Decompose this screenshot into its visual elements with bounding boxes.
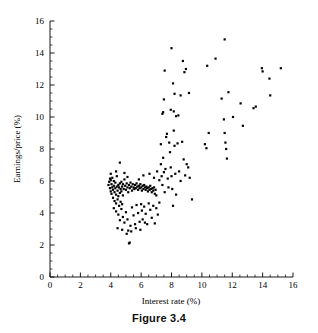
- data-point: [127, 230, 129, 232]
- data-point: [180, 94, 182, 96]
- data-point: [120, 188, 122, 190]
- data-point: [125, 189, 127, 191]
- data-point: [240, 102, 242, 104]
- data-point: [119, 162, 121, 164]
- data-point: [149, 185, 151, 187]
- figure-container: 0246810121416 0246810121416 Interest rat…: [0, 0, 318, 333]
- data-point: [125, 211, 127, 213]
- data-point: [129, 225, 131, 227]
- data-point: [149, 209, 151, 211]
- data-point: [153, 177, 155, 179]
- data-point: [113, 207, 115, 209]
- data-point: [134, 223, 136, 225]
- data-point: [252, 107, 254, 109]
- data-point: [169, 151, 171, 153]
- data-point: [129, 182, 131, 184]
- data-point: [178, 170, 180, 172]
- data-point: [135, 204, 137, 206]
- data-point: [225, 148, 227, 150]
- data-point: [172, 82, 174, 84]
- data-point: [155, 194, 157, 196]
- data-point: [132, 214, 134, 216]
- data-point: [146, 223, 148, 225]
- data-point: [110, 193, 112, 195]
- data-point: [180, 180, 182, 182]
- data-point: [206, 65, 208, 67]
- data-point: [135, 182, 137, 184]
- data-point: [226, 158, 228, 160]
- data-point: [116, 227, 118, 229]
- data-point: [177, 114, 179, 116]
- data-point: [173, 110, 175, 112]
- data-point: [181, 141, 183, 143]
- data-point: [121, 186, 123, 188]
- data-point: [167, 186, 169, 188]
- data-point: [144, 222, 146, 224]
- figure-caption: Figure 3.4: [0, 312, 318, 324]
- data-point: [130, 186, 132, 188]
- data-point: [160, 163, 162, 165]
- data-point: [223, 118, 225, 120]
- data-point: [164, 70, 166, 72]
- data-point: [128, 184, 130, 186]
- data-point: [111, 177, 113, 179]
- data-point: [173, 93, 175, 95]
- data-point: [268, 78, 270, 80]
- data-point: [113, 185, 115, 187]
- data-point: [126, 176, 128, 178]
- data-point: [183, 158, 185, 160]
- data-point: [121, 229, 123, 231]
- data-point: [123, 172, 125, 174]
- data-point: [148, 173, 150, 175]
- data-point: [204, 143, 206, 145]
- data-point: [164, 191, 166, 193]
- data-point: [120, 208, 122, 210]
- data-point: [139, 229, 141, 231]
- data-point: [232, 116, 234, 118]
- data-point: [152, 205, 154, 207]
- data-point: [143, 206, 145, 208]
- data-point: [142, 174, 144, 176]
- x-axis-title: Interest rate (%): [142, 296, 200, 306]
- y-tick-label: 16: [35, 16, 45, 26]
- data-point: [115, 210, 117, 212]
- data-point: [126, 186, 128, 188]
- data-point: [187, 166, 189, 168]
- data-point: [280, 67, 282, 69]
- x-tick-label: 12: [228, 280, 237, 290]
- data-point: [184, 174, 186, 176]
- y-tick-label: 2: [40, 240, 45, 250]
- data-point: [170, 109, 172, 111]
- x-tick-label: 14: [258, 280, 268, 290]
- data-point: [109, 187, 111, 189]
- data-point: [122, 183, 124, 185]
- data-point: [114, 182, 116, 184]
- data-point: [122, 194, 124, 196]
- data-point: [127, 191, 129, 193]
- data-point: [120, 201, 122, 203]
- data-point: [113, 191, 115, 193]
- data-point: [131, 190, 133, 192]
- data-point: [110, 183, 112, 185]
- data-point: [138, 178, 140, 180]
- data-point: [157, 214, 159, 216]
- data-point: [269, 94, 271, 96]
- data-point: [171, 188, 173, 190]
- data-point: [118, 205, 120, 207]
- data-point: [112, 197, 114, 199]
- data-point: [172, 205, 174, 207]
- data-point: [221, 98, 223, 100]
- data-point: [140, 203, 142, 205]
- data-point: [224, 142, 226, 144]
- y-tick-label: 8: [40, 144, 45, 154]
- y-tick-label: 14: [35, 48, 45, 58]
- data-point: [170, 47, 172, 49]
- data-point: [183, 71, 185, 73]
- data-point: [158, 202, 160, 204]
- data-point: [153, 186, 155, 188]
- x-axis-ticks: [50, 273, 293, 278]
- data-point: [175, 194, 177, 196]
- data-point: [141, 210, 143, 212]
- x-tick-label: 10: [197, 280, 207, 290]
- data-point: [117, 195, 119, 197]
